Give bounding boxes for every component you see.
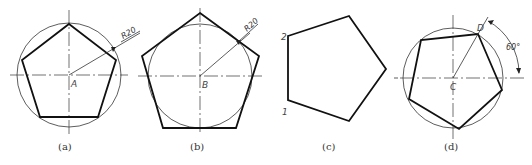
figure-d: 60° D C (d) (400, 15, 524, 152)
angle-arrow-bottom-d (516, 68, 521, 74)
center-label-a: A (70, 79, 77, 89)
center-label-b: B (202, 80, 208, 90)
caption-c: (c) (322, 141, 336, 152)
caption-a: (a) (58, 141, 72, 152)
drawing-canvas: R20 A (a) R20 B (b) 2 1 (c) 60° D C (0, 0, 532, 165)
vertex-label-2: 2 (281, 32, 287, 42)
vertex-label-1: 1 (282, 107, 288, 117)
pentagon-b (142, 13, 259, 128)
caption-b: (b) (190, 141, 204, 152)
radius-leader-b (200, 33, 250, 76)
radius-line-cd (453, 34, 478, 78)
figure-b: R20 B (b) (138, 8, 262, 152)
caption-d: (d) (444, 141, 458, 152)
pentagon-c (288, 16, 386, 121)
radius-leader-a (69, 33, 140, 75)
figure-a: R20 A (a) (10, 10, 140, 152)
dimension-label-b: R20 (242, 16, 260, 33)
center-label-c: C (450, 82, 457, 92)
vertex-label-d: D (477, 23, 484, 33)
dimension-label-a: R20 (120, 25, 138, 41)
angle-label-d: 60° (506, 43, 520, 52)
figure-c: 2 1 (c) (281, 16, 398, 152)
